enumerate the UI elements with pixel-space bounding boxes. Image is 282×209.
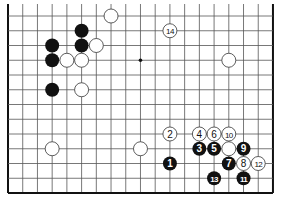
white-stone-move-4: 4 <box>192 127 206 141</box>
move-number: 6 <box>211 129 217 140</box>
white-stone <box>222 142 236 156</box>
white-stone <box>222 53 236 67</box>
move-number: 8 <box>241 158 247 169</box>
move-number: 13 <box>210 175 219 184</box>
move-number: 4 <box>197 129 203 140</box>
white-stone <box>89 39 103 53</box>
black-stone-move-7: 7 <box>222 157 236 171</box>
white-stone-move-14: 14 <box>163 24 177 38</box>
move-number: 11 <box>240 175 248 184</box>
go-board: 1424610359178121311 <box>0 0 282 209</box>
white-stone <box>60 53 74 67</box>
white-stone-move-12: 12 <box>251 157 265 171</box>
move-number: 12 <box>254 160 263 169</box>
white-stone <box>104 9 118 23</box>
black-stone-move-5: 5 <box>207 142 221 156</box>
black-stone-move-11: 11 <box>237 171 251 185</box>
white-stone <box>45 142 59 156</box>
black-stone-move-13: 13 <box>207 171 221 185</box>
white-stone-move-10: 10 <box>222 127 236 141</box>
move-number: 2 <box>167 129 173 140</box>
white-stone <box>75 83 89 97</box>
star-point <box>139 58 143 62</box>
white-stone-move-6: 6 <box>207 127 221 141</box>
black-stone <box>45 83 59 97</box>
black-stone <box>45 53 59 67</box>
black-stone-move-9: 9 <box>237 142 251 156</box>
black-stone <box>45 39 59 53</box>
move-number: 1 <box>167 158 173 169</box>
white-stone <box>75 53 89 67</box>
move-number: 7 <box>226 158 232 169</box>
move-number: 10 <box>225 131 234 140</box>
white-stone-move-2: 2 <box>163 127 177 141</box>
move-number: 3 <box>197 143 203 154</box>
white-stone-move-8: 8 <box>237 157 251 171</box>
move-number: 9 <box>241 143 247 154</box>
move-number: 14 <box>166 27 175 36</box>
star-points <box>139 58 143 62</box>
move-number: 5 <box>211 143 217 154</box>
black-stone <box>75 24 89 38</box>
black-stone-move-3: 3 <box>192 142 206 156</box>
white-stone <box>133 142 147 156</box>
black-stone-move-1: 1 <box>163 157 177 171</box>
black-stone <box>75 39 89 53</box>
